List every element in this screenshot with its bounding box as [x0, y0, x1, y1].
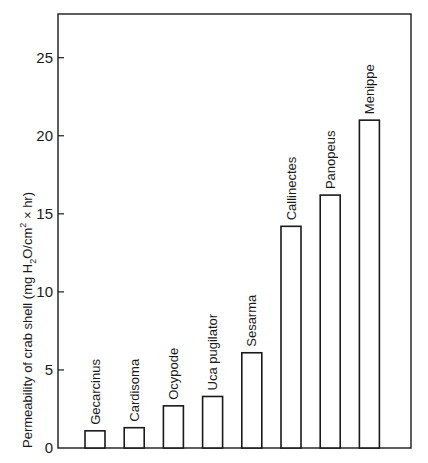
bar-label: Sesarma	[244, 294, 259, 347]
bar-group: Menippe	[359, 64, 379, 448]
bar-label: Panopeus	[323, 130, 338, 189]
y-tick-label: 15	[36, 205, 53, 222]
bar-label: Gecarcinus	[88, 359, 103, 425]
y-tick-label: 20	[36, 127, 53, 144]
bar-group: Sesarma	[242, 294, 262, 448]
bar-group: Cardisoma	[124, 358, 144, 448]
bar-label: Cardisoma	[127, 358, 142, 422]
bar	[359, 120, 379, 448]
bar-label: Ocypode	[166, 348, 181, 400]
bar	[281, 226, 301, 448]
bar-group: Ocypode	[163, 348, 183, 448]
y-tick-label: 10	[36, 283, 53, 300]
bars: GecarcinusCardisomaOcypodeUca pugilatorS…	[85, 64, 379, 448]
bar-group: Callinectes	[281, 156, 301, 448]
bar	[203, 396, 223, 448]
y-axis-title: Permeability of crab shell (mg H2O/cm2 ×…	[18, 192, 38, 448]
y-tick-label: 0	[45, 439, 53, 456]
bar-label: Callinectes	[284, 156, 299, 220]
bar	[242, 353, 262, 448]
bar-group: Uca pugilator	[203, 313, 223, 448]
bar	[320, 195, 340, 448]
svg-text:Permeability of crab shell (mg: Permeability of crab shell (mg H2O/cm2 ×…	[18, 192, 38, 448]
bar-chart: 0510152025 GecarcinusCardisomaOcypodeUca…	[0, 0, 428, 463]
bar-label: Uca pugilator	[205, 313, 220, 390]
bar-label: Menippe	[362, 64, 377, 114]
y-title-pre: Permeability of crab shell (mg H	[20, 264, 35, 448]
plot-border	[58, 14, 411, 448]
y-axis-ticks: 0510152025	[36, 49, 64, 456]
y-tick-label: 25	[36, 49, 53, 66]
y-title-post: × hr)	[20, 192, 35, 223]
plot-frame	[58, 14, 411, 448]
y-tick-label: 5	[45, 361, 53, 378]
bar-group: Panopeus	[320, 130, 340, 448]
bar	[163, 406, 183, 448]
bar	[85, 431, 105, 448]
bar-group: Gecarcinus	[85, 359, 105, 448]
y-title-mid: O/cm	[20, 228, 35, 259]
bar	[124, 428, 144, 448]
